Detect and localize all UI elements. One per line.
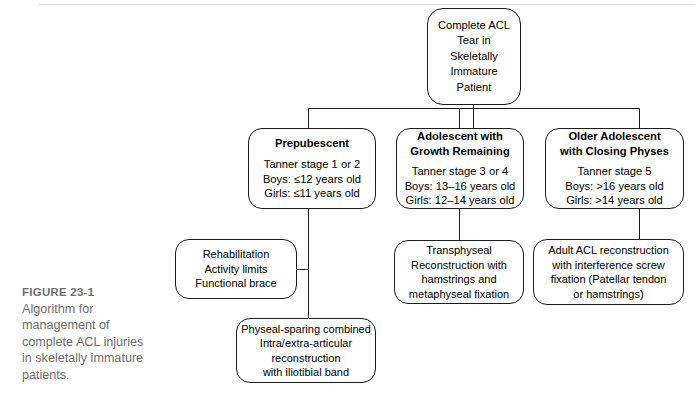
node-rehabilitation-line-2: Activity limits [205, 262, 268, 277]
connector-bus-to-adolescent-growth [459, 108, 460, 128]
node-transphyseal-reconstruction: Transphyseal Reconstruction with hamstri… [394, 240, 524, 304]
figure-number-label: FIGURE 23-1 [22, 286, 154, 298]
figure-page: Complete ACL Tear in Skeletally Immature… [0, 0, 695, 409]
node-root-line-2: Tear in [457, 33, 491, 49]
node-physeal-sparing-line-4: with iliotibial band [263, 365, 349, 380]
node-complete-acl-tear: Complete ACL Tear in Skeletally Immature… [427, 8, 521, 105]
node-older-adolescent-line-1: Tanner stage 5 [577, 164, 651, 179]
connector-prepubescent-trunk [308, 209, 309, 319]
node-rehabilitation: Rehabilitation Activity limits Functiona… [175, 239, 297, 299]
node-adolescent-growth-line-1: Tanner stage 3 or 4 [412, 164, 508, 179]
node-adolescent-growth-heading-2: Growth Remaining [410, 144, 509, 159]
connector-older-adolescent-to-adult-acl [639, 209, 640, 240]
node-root-line-1: Complete ACL [438, 18, 510, 34]
node-transphyseal-line-3: hamstrings and [421, 272, 496, 287]
node-older-adolescent-line-3: Girls: >14 years old [566, 193, 663, 208]
node-root-line-4: Immature [450, 64, 497, 80]
node-physeal-sparing-line-2: Intra/extra-articular [260, 336, 352, 351]
node-older-adolescent-line-2: Boys: >16 years old [565, 179, 664, 194]
node-older-adolescent-heading-2: with Closing Physes [560, 144, 669, 159]
page-top-rule [38, 4, 695, 5]
connector-bus-to-prepubescent [308, 108, 309, 128]
node-older-adolescent-with-closing-physes: Older Adolescent with Closing Physes Tan… [545, 128, 684, 209]
connector-bus-to-older-adolescent [639, 108, 640, 128]
connector-adolescent-growth-to-transphyseal [459, 209, 460, 241]
node-physeal-sparing-line-3: reconstruction [271, 351, 340, 366]
node-transphyseal-line-2: Reconstruction with [411, 258, 507, 273]
node-adolescent-growth-heading-1: Adolescent with [417, 129, 503, 144]
node-adult-acl-line-4: or hamstrings) [573, 287, 643, 302]
node-prepubescent-line-1: Tanner stage 1 or 2 [264, 157, 360, 172]
node-adult-acl-line-3: fixation (Patellar tendon [551, 272, 667, 287]
figure-caption: FIGURE 23-1 Algorithm for management of … [22, 286, 154, 383]
node-rehabilitation-line-3: Functional brace [195, 276, 276, 291]
node-adolescent-growth-line-2: Boys: 13–16 years old [405, 179, 516, 194]
node-physeal-sparing-reconstruction: Physeal-sparing combined Intra/extra-art… [236, 318, 376, 383]
node-transphyseal-line-1: Transphyseal [426, 243, 492, 258]
node-adult-acl-line-2: with interference screw [552, 258, 665, 273]
node-adult-acl-line-1: Adult ACL reconstruction [548, 243, 669, 258]
node-adolescent-with-growth-remaining: Adolescent with Growth Remaining Tanner … [396, 128, 524, 209]
node-root-line-3: Skeletally [450, 49, 498, 65]
node-rehabilitation-line-1: Rehabilitation [203, 247, 270, 262]
node-adult-acl-reconstruction: Adult ACL reconstruction with interferen… [533, 239, 684, 305]
node-prepubescent: Prepubescent Tanner stage 1 or 2 Boys: ≤… [248, 128, 376, 209]
node-transphyseal-line-4: metaphyseal fixation [409, 287, 509, 302]
node-prepubescent-heading: Prepubescent [275, 136, 349, 151]
node-older-adolescent-heading-1: Older Adolescent [568, 129, 660, 144]
connector-prepubescent-to-rehabilitation [297, 269, 309, 270]
node-adolescent-growth-line-3: Girls: 12–14 years old [406, 193, 515, 208]
node-physeal-sparing-line-1: Physeal-sparing combined [241, 322, 371, 337]
connector-branch-bus [308, 108, 640, 109]
figure-caption-text: Algorithm for management of complete ACL… [22, 301, 154, 383]
node-prepubescent-line-2: Boys: ≤12 years old [263, 172, 361, 187]
node-prepubescent-line-3: Girls: ≤11 years old [264, 186, 359, 201]
node-root-line-5: Patient [457, 80, 492, 96]
